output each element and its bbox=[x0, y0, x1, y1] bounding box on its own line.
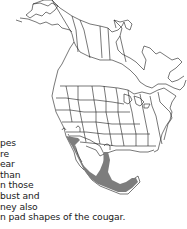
text-line-1: pes bbox=[0, 138, 187, 149]
text-line-2: re bbox=[0, 149, 187, 160]
body-text: pes re ear than n those bust and ney als… bbox=[0, 138, 187, 223]
text-line-6: bust and bbox=[0, 191, 187, 202]
text-line-3: ear bbox=[0, 159, 187, 170]
text-line-8: n pad shapes of the cougar. bbox=[0, 212, 187, 223]
canada-outline bbox=[70, 30, 186, 90]
alaska-outline bbox=[26, 3, 58, 18]
